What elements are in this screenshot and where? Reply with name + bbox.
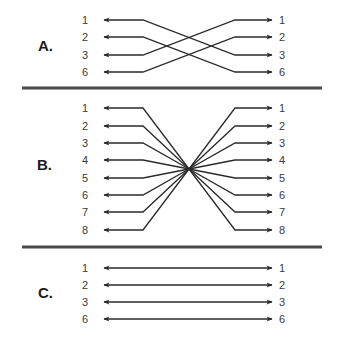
left-pin-label: 3 <box>82 137 88 149</box>
right-pin-label: 2 <box>279 120 285 132</box>
section-label: A. <box>38 37 53 54</box>
left-pin-label: 6 <box>82 189 88 201</box>
left-pin-label: 1 <box>82 14 88 26</box>
left-pin-label: 6 <box>82 66 88 78</box>
left-pin-label: 2 <box>82 31 88 43</box>
right-pin-label: 3 <box>279 49 285 61</box>
right-pin-label: 6 <box>279 189 285 201</box>
right-pin-label: 4 <box>279 154 285 166</box>
cable-wiring-diagram: A.12361236B.1234567812345678C.12361236 <box>0 0 339 346</box>
left-pin-label: 2 <box>82 120 88 132</box>
left-pin-label: 2 <box>82 279 88 291</box>
section-dividers <box>22 88 322 247</box>
left-pin-label: 1 <box>82 262 88 274</box>
sections: A.12361236B.1234567812345678C.12361236 <box>37 14 285 325</box>
right-pin-label: 6 <box>279 66 285 78</box>
right-pin-label: 7 <box>279 206 285 218</box>
left-pin-label: 8 <box>82 224 88 236</box>
right-pin-label: 3 <box>279 296 285 308</box>
right-pin-label: 1 <box>279 14 285 26</box>
section-label: B. <box>37 156 52 173</box>
right-pin-label: 5 <box>279 172 285 184</box>
left-pin-label: 1 <box>82 102 88 114</box>
right-pin-label: 3 <box>279 137 285 149</box>
left-pin-label: 3 <box>82 49 88 61</box>
left-pin-label: 7 <box>82 206 88 218</box>
section-label: C. <box>38 284 53 301</box>
left-pin-label: 5 <box>82 172 88 184</box>
right-pin-label: 6 <box>279 313 285 325</box>
left-pin-label: 4 <box>82 154 88 166</box>
section-b-rollover: B.1234567812345678 <box>37 102 285 236</box>
section-c-straight-through: C.12361236 <box>38 262 285 325</box>
left-pin-label: 3 <box>82 296 88 308</box>
left-pin-label: 6 <box>82 313 88 325</box>
section-a-crossover: A.12361236 <box>38 14 285 78</box>
right-pin-label: 8 <box>279 224 285 236</box>
right-pin-label: 2 <box>279 279 285 291</box>
wire-6-to-3 <box>104 143 272 195</box>
right-pin-label: 2 <box>279 31 285 43</box>
right-pin-label: 1 <box>279 262 285 274</box>
right-pin-label: 1 <box>279 102 285 114</box>
